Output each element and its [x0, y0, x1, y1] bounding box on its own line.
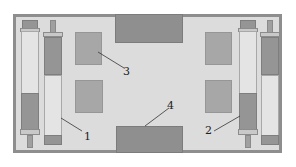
- label-2: 2: [205, 125, 212, 136]
- label-4: 4: [167, 100, 174, 111]
- leader-lines: [0, 0, 296, 167]
- label-3: 3: [123, 66, 130, 77]
- label-1: 1: [84, 131, 91, 142]
